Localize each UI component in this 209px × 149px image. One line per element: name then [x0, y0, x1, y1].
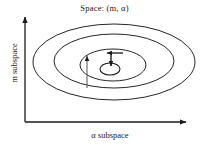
inner-ellipse — [100, 63, 120, 75]
y-axis-label: m subspace — [9, 23, 19, 103]
figure-container: Space: (m, α) — [0, 0, 209, 149]
third-ellipse — [80, 49, 146, 81]
convergence-arrows-group — [87, 52, 123, 88]
concentric-ellipses-group — [33, 24, 195, 100]
diagram-canvas — [0, 0, 209, 149]
second-ellipse — [54, 34, 174, 88]
axes-group — [25, 17, 186, 122]
outer-ellipse — [33, 24, 195, 100]
x-axis-label: α subspace — [55, 130, 165, 140]
